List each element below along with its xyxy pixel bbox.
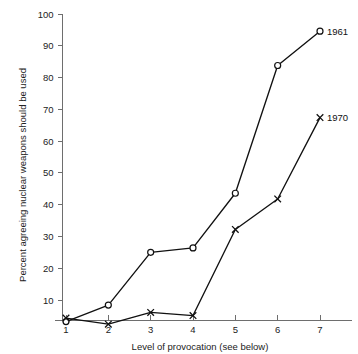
x-tick-label: 3 <box>148 324 153 335</box>
data-point-marker-circle <box>232 190 238 196</box>
line-chart: 102030405060708090100 1234567 19611970 P… <box>0 0 358 354</box>
series-line <box>66 31 320 321</box>
series-label-1970: 1970 <box>327 112 348 123</box>
y-tick-label: 30 <box>43 231 54 242</box>
x-tick-label: 5 <box>233 324 238 335</box>
data-point-marker-circle <box>317 28 323 34</box>
y-tick-label: 10 <box>43 295 54 306</box>
data-point-marker-circle <box>105 302 111 308</box>
x-tick-label: 4 <box>190 324 195 335</box>
y-tick-label: 50 <box>43 167 54 178</box>
x-axis-ticks: 1234567 <box>63 315 322 335</box>
x-tick-label: 6 <box>275 324 280 335</box>
data-point-marker-cross <box>274 196 281 203</box>
series-layer: 19611970 <box>63 26 348 328</box>
series-1970: 1970 <box>63 112 348 327</box>
data-point-marker-cross <box>317 114 324 121</box>
data-point-marker-cross <box>232 226 239 233</box>
y-axis-label: Percent agreeing nuclear weapons should … <box>17 68 28 282</box>
x-tick-label: 7 <box>317 324 322 335</box>
series-1961: 1961 <box>63 26 348 325</box>
y-tick-label: 90 <box>43 40 54 51</box>
y-tick-label: 80 <box>43 72 54 83</box>
y-axis-ticks: 102030405060708090100 <box>38 9 63 306</box>
y-tick-label: 60 <box>43 136 54 147</box>
data-point-marker-circle <box>275 62 281 68</box>
x-axis-label: Level of provocation (see below) <box>132 341 269 352</box>
y-tick-label: 100 <box>38 9 54 20</box>
data-point-marker-circle <box>148 249 154 255</box>
data-point-marker-circle <box>190 245 196 251</box>
series-label-1961: 1961 <box>327 26 348 37</box>
y-tick-label: 40 <box>43 199 54 210</box>
y-tick-label: 70 <box>43 104 54 115</box>
series-line <box>66 118 320 325</box>
chart-container: 102030405060708090100 1234567 19611970 P… <box>0 0 358 354</box>
y-tick-label: 20 <box>43 263 54 274</box>
